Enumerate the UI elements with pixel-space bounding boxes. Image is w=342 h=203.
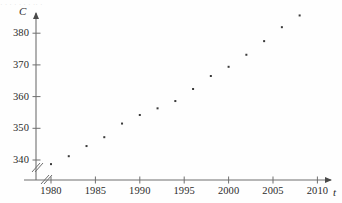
data-point	[68, 155, 70, 157]
data-point	[121, 123, 123, 125]
data-point	[174, 100, 176, 102]
x-tick-label-2010: 2010	[303, 185, 331, 196]
data-point	[103, 136, 105, 138]
y-tick-label-380: 380	[2, 27, 29, 38]
data-point	[245, 54, 247, 56]
data-point	[263, 40, 265, 42]
chart-figure: · · · · · · · ·· ·	[0, 0, 342, 203]
data-point	[157, 107, 159, 109]
data-point	[210, 75, 212, 77]
y-tick-label-340: 340	[2, 154, 29, 165]
axis-lines	[24, 13, 331, 180]
y-tick-label-360: 360	[2, 91, 29, 102]
y-tick-label-350: 350	[2, 122, 29, 133]
data-point	[50, 163, 52, 165]
data-point	[299, 14, 301, 16]
y-tick-label-370: 370	[2, 59, 29, 70]
data-point	[281, 26, 283, 28]
y-axis-break-icon	[32, 163, 43, 172]
y-axis-label: C	[19, 5, 26, 17]
x-tick-label-1985: 1985	[81, 185, 109, 196]
x-tick-label-1995: 1995	[170, 185, 198, 196]
x-tick-label-2000: 2000	[215, 185, 243, 196]
scatter-plot-canvas	[0, 0, 342, 203]
x-tick-label-1990: 1990	[126, 185, 154, 196]
data-point	[192, 88, 194, 90]
x-axis-label: t	[333, 186, 336, 198]
x-tick-label-1980: 1980	[37, 185, 65, 196]
data-point	[228, 66, 230, 68]
data-point	[86, 145, 88, 147]
data-point	[139, 114, 141, 116]
axis-break-marks	[32, 163, 52, 184]
x-tick-label-2005: 2005	[259, 185, 287, 196]
data-point-layer	[50, 14, 301, 165]
